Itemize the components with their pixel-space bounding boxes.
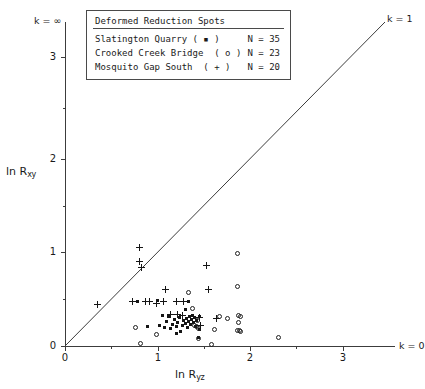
x-tick-1: [158, 346, 159, 351]
data-point-filled-square: [169, 327, 172, 330]
data-point-filled-square: [175, 332, 178, 335]
data-point-filled-square: [161, 314, 164, 317]
legend-label-mosquito-gap-south: Mosquito Gap South ( + ): [95, 60, 247, 74]
data-point-plus: [162, 286, 169, 293]
x-tick-minor-2-5: [296, 346, 297, 349]
data-point-filled-square: [171, 323, 174, 326]
data-point-open-circle: [138, 341, 143, 346]
k-one-annotation: k = 1: [387, 13, 413, 24]
data-point-filled-square: [136, 300, 139, 303]
x-tick-0: [65, 346, 66, 351]
data-point-filled-square: [184, 308, 187, 311]
data-point-open-circle: [154, 332, 159, 337]
y-tick-2: [61, 159, 66, 160]
legend-count-slatington-quarry: N = 35: [247, 32, 284, 46]
data-point-plus: [173, 298, 180, 305]
data-point-plus: [196, 314, 203, 321]
data-point-open-circle: [276, 335, 281, 340]
data-point-filled-square: [179, 330, 182, 333]
data-point-filled-square: [165, 320, 168, 323]
x-tick-label-0: 0: [55, 352, 75, 363]
data-point-open-circle: [236, 320, 241, 325]
y-tick-label-0: 0: [36, 340, 56, 351]
y-tick-3: [61, 57, 66, 58]
data-point-open-circle: [212, 327, 217, 332]
data-point-open-circle: [209, 342, 214, 347]
legend-row-crooked-creek-bridge: Crooked Creek Bridge ( o ) N = 23: [93, 46, 284, 60]
x-tick-label-3: 3: [333, 352, 353, 363]
legend-label-crooked-creek-bridge: Crooked Creek Bridge ( o ): [95, 46, 247, 60]
data-point-open-circle: [235, 284, 240, 289]
data-point-plus: [203, 262, 210, 269]
data-point-plus: [136, 244, 143, 251]
data-point-open-circle: [133, 325, 138, 330]
y-tick-label-1: 1: [36, 246, 56, 257]
data-point-filled-square: [184, 322, 187, 325]
data-point-plus: [180, 298, 187, 305]
data-point-plus: [138, 264, 145, 271]
k-infinity-annotation: k = ∞: [34, 15, 61, 26]
data-point-plus: [146, 298, 153, 305]
data-point-plus: [174, 311, 181, 318]
legend-title: Deformed Reduction Spots: [93, 15, 284, 29]
y-tick-minor-0-5: [63, 299, 66, 300]
data-point-filled-square: [173, 318, 176, 321]
x-axis-line: [65, 346, 395, 347]
data-point-filled-square: [176, 321, 179, 324]
legend-count-mosquito-gap-south: N = 20: [247, 60, 284, 74]
data-point-open-circle: [235, 328, 240, 333]
data-point-plus: [94, 301, 101, 308]
legend-count-crooked-creek-bridge: N = 23: [247, 46, 284, 60]
x-tick-minor-0-5: [111, 346, 112, 349]
data-point-filled-square: [187, 300, 190, 303]
y-tick-label-3: 3: [36, 51, 56, 62]
y-tick-minor-1-5: [63, 206, 66, 207]
x-tick-2: [250, 346, 251, 351]
x-tick-label-1: 1: [148, 352, 168, 363]
y-tick-minor-2-5: [63, 108, 66, 109]
y-axis-title: ln Rxy: [6, 165, 36, 179]
data-point-plus: [153, 300, 160, 307]
legend-row-mosquito-gap-south: Mosquito Gap South ( + ) N = 20: [93, 60, 284, 74]
data-point-plus: [213, 315, 220, 322]
data-point-open-circle: [190, 306, 195, 311]
x-tick-3: [343, 346, 344, 351]
k-zero-annotation: k = 0: [399, 340, 425, 351]
data-point-plus: [160, 298, 167, 305]
data-point-filled-square: [186, 326, 189, 329]
data-point-plus: [205, 286, 212, 293]
x-tick-minor-1-5: [204, 346, 205, 349]
y-tick-1: [61, 252, 66, 253]
data-point-plus: [197, 322, 204, 329]
data-point-open-circle: [235, 251, 240, 256]
data-point-filled-square: [163, 326, 166, 329]
y-tick-label-2: 2: [36, 153, 56, 164]
x-tick-label-2: 2: [240, 352, 260, 363]
data-point-filled-square: [158, 324, 161, 327]
data-point-plus: [129, 298, 136, 305]
legend-label-slatington-quarry: Slatington Quarry ( ▪ ): [95, 32, 247, 46]
data-point-open-circle: [186, 290, 191, 295]
data-point-filled-square: [175, 325, 178, 328]
legend-row-slatington-quarry: Slatington Quarry ( ▪ ) N = 35: [93, 32, 284, 46]
data-point-open-circle: [238, 314, 243, 319]
x-axis-title: ln Ryz: [175, 368, 205, 382]
data-point-filled-square: [146, 325, 149, 328]
data-point-open-circle: [196, 336, 201, 341]
data-point-plus: [167, 311, 174, 318]
data-point-open-circle: [225, 316, 230, 321]
legend-box: Deformed Reduction Spots Slatington Quar…: [86, 10, 291, 80]
